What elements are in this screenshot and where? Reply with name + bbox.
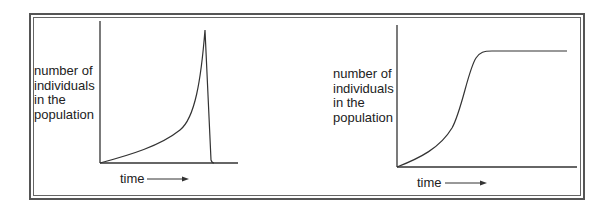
right-time-arrow-icon (445, 181, 487, 186)
right-ylabel-line: individuals (333, 82, 394, 97)
right-ylabel-line: number of (333, 67, 394, 82)
right-chart-axes (397, 25, 577, 167)
left-time-arrow-icon (147, 177, 189, 182)
left-ylabel-line: individuals (34, 79, 95, 94)
right-ylabel-line: in the (333, 96, 394, 111)
right-chart-curve (397, 51, 567, 167)
right-ylabel-line: population (333, 111, 394, 126)
left-ylabel-line: in the (34, 93, 95, 108)
left-chart-axes (100, 21, 238, 163)
right-y-axis-label: number of individuals in the population (333, 67, 394, 125)
left-chart-curve (100, 30, 214, 163)
left-y-axis-label: number of individuals in the population (34, 64, 95, 122)
left-ylabel-line: population (34, 108, 95, 123)
right-x-axis-label: time (417, 176, 442, 190)
left-x-axis-label: time (120, 172, 145, 186)
left-ylabel-line: number of (34, 64, 95, 79)
